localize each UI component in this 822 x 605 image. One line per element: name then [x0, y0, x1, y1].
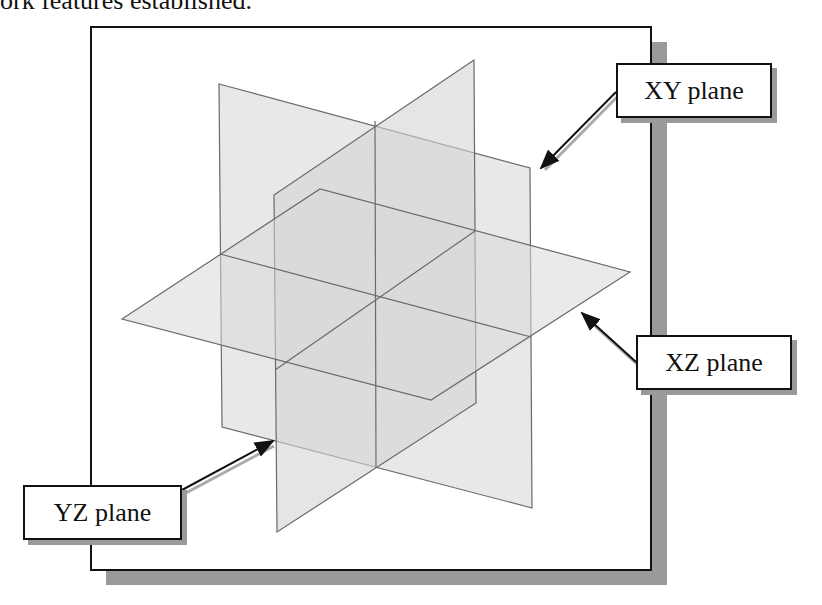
yz-plane-label: YZ plane	[23, 485, 182, 540]
xy-plane-label: XY plane	[616, 63, 772, 118]
xz-plane-label: XZ plane	[636, 335, 792, 390]
